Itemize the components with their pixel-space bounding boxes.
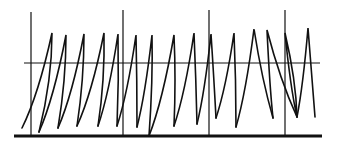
wave-cycle-3 bbox=[58, 34, 84, 128]
sawtooth-diagram bbox=[0, 0, 337, 147]
wave-cycle-9 bbox=[174, 33, 197, 126]
wave-cycle-1 bbox=[22, 33, 52, 132]
wave-cycle-15 bbox=[297, 28, 315, 117]
wave-cycle-10 bbox=[197, 34, 216, 124]
wave-cycle-11 bbox=[216, 33, 236, 127]
diagram-svg bbox=[0, 0, 337, 147]
sawtooth-waveform bbox=[22, 28, 315, 136]
wave-cycle-6 bbox=[117, 35, 137, 127]
wave-cycle-7 bbox=[137, 35, 152, 136]
